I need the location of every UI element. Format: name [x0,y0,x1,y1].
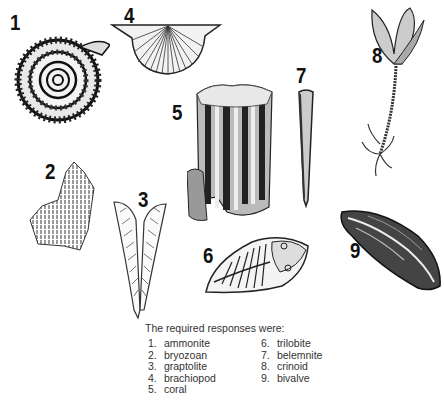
ammonite-drawing [10,25,110,125]
figure-number-5: 5 [172,102,182,124]
brachiopod-drawing [110,22,222,77]
responses-caption: The required responses were: [145,322,285,334]
response-label: brachiopod [164,372,216,384]
response-label: crinoid [277,360,308,372]
crinoid-drawing [350,4,430,184]
responses-list: 1. ammonite 2. bryozoan 3. graptolite 4.… [148,338,371,396]
response-number: 5. [148,384,161,396]
response-number: 1. [148,338,161,350]
figure-number-7: 7 [296,65,306,87]
responses-column-2: 6. trilobite 7. belemnite 8. crinoid 9. … [261,338,371,396]
bivalve-drawing [338,206,444,294]
coral-drawing [187,82,277,222]
response-number: 9. [261,373,274,385]
responses-column-1: 1. ammonite 2. bryozoan 3. graptolite 4.… [148,338,261,396]
response-number: 6. [261,338,274,350]
response-label: bivalve [277,372,310,384]
response-label: bryozoan [164,349,207,361]
trilobite-drawing [202,232,312,296]
response-label: ammonite [164,337,210,349]
response-label: belemnite [277,349,323,361]
response-item: 9. bivalve [261,373,371,385]
response-label: graptolite [164,360,207,372]
response-item: 5. coral [148,384,261,396]
response-label: trilobite [277,337,311,349]
belemnite-drawing [296,88,316,208]
graptolite-drawing [112,200,168,324]
response-label: coral [164,383,187,395]
bryozoan-drawing [28,160,98,252]
